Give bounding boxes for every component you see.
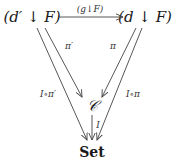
node-d-comma-F: (d ↓ F) [118, 8, 172, 26]
arrow-i-pi-prime [37, 28, 87, 140]
commutative-diagram: (d′ ↓ F) (d ↓ F) 𝒞 Set (g↓F) π′ π I∘π′ I… [0, 0, 178, 166]
node-category-C: 𝒞 [87, 97, 102, 115]
node-d-prime-comma-F: (d′ ↓ F) [3, 8, 60, 26]
label-g-comma-F: (g↓F) [77, 4, 104, 14]
label-pi: π [109, 41, 117, 51]
arrow-i-pi [97, 28, 142, 140]
node-set: Set [79, 144, 105, 160]
label-i-pi: I∘π [125, 89, 141, 99]
label-pi-prime: π′ [64, 41, 73, 51]
label-i: I [95, 120, 100, 130]
arrow-pi [102, 28, 136, 97]
label-i-pi-prime: I∘π′ [39, 89, 56, 99]
